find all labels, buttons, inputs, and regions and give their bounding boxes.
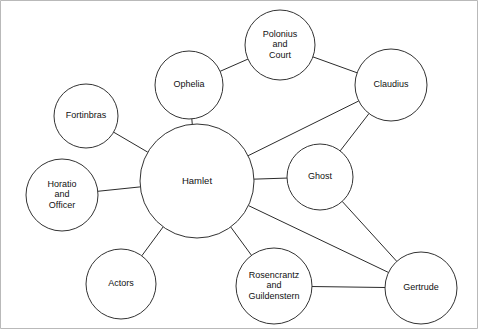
edge-hamlet-rosencrantz — [231, 227, 252, 255]
node-circle-fortinbras[interactable] — [54, 84, 118, 148]
edge-hamlet-ghost — [254, 178, 287, 179]
node-hamlet[interactable]: Hamlet — [140, 124, 254, 238]
edge-ghost-gertrude — [342, 201, 397, 261]
edge-actors-hamlet — [142, 227, 163, 256]
node-circle-hamlet[interactable] — [140, 124, 254, 238]
node-circle-ophelia[interactable] — [155, 51, 223, 119]
edge-claudius-ghost — [340, 114, 369, 151]
node-gertrude[interactable]: Gertrude — [385, 252, 457, 324]
node-layer: PoloniusandCourtClaudiusOpheliaFortinbra… — [26, 10, 457, 324]
node-polonius[interactable]: PoloniusandCourt — [245, 10, 315, 80]
node-fortinbras[interactable]: Fortinbras — [54, 84, 118, 148]
node-rosencrantz[interactable]: RosencrantzandGuildenstern — [236, 248, 312, 324]
edge-fortinbras-hamlet — [114, 132, 148, 152]
node-circle-gertrude[interactable] — [385, 252, 457, 324]
node-horatio[interactable]: HoratioandOfficer — [26, 159, 98, 231]
node-circle-ghost[interactable] — [287, 144, 353, 210]
node-claudius[interactable]: Claudius — [355, 49, 427, 121]
node-ophelia[interactable]: Ophelia — [155, 51, 223, 119]
edge-ophelia-polonius — [220, 59, 248, 71]
edge-horatio-hamlet — [98, 187, 140, 191]
node-actors[interactable]: Actors — [86, 249, 156, 319]
node-ghost[interactable]: Ghost — [287, 144, 353, 210]
node-circle-polonius[interactable] — [245, 10, 315, 80]
node-circle-claudius[interactable] — [355, 49, 427, 121]
network-diagram: PoloniusandCourtClaudiusOpheliaFortinbra… — [0, 0, 478, 329]
node-circle-horatio[interactable] — [26, 159, 98, 231]
node-circle-rosencrantz[interactable] — [236, 248, 312, 324]
network-canvas: PoloniusandCourtClaudiusOpheliaFortinbra… — [0, 0, 478, 329]
edge-rosencrantz-gertrude — [312, 287, 385, 288]
edge-polonius-claudius — [313, 57, 357, 73]
node-circle-actors[interactable] — [86, 249, 156, 319]
